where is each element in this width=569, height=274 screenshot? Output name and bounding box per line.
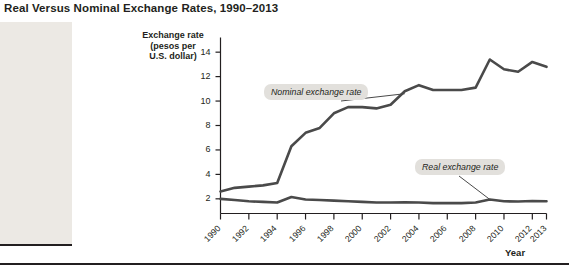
leader-line-real (459, 176, 490, 199)
chart-plot-area: Exchange rate(pesos perU.S. dollar) Year… (0, 0, 569, 274)
chart-svg (0, 0, 569, 274)
series-callout-real: Real exchange rate (415, 159, 505, 175)
series-callout-nominal: Nominal exchange rate (264, 84, 368, 100)
series-line-real (221, 197, 547, 203)
y-tick-label: 2 (193, 194, 211, 203)
y-tick-label: 12 (193, 72, 211, 81)
y-tick-label: 6 (193, 145, 211, 154)
annotation-leader-lines (341, 94, 490, 200)
chart-series (221, 60, 547, 204)
y-axis-title: Exchange rate(pesos perU.S. dollar) (131, 30, 215, 62)
y-axis-title-line: Exchange rate (131, 30, 215, 41)
y-tick-label: 8 (193, 121, 211, 130)
x-axis-title: Year (505, 247, 525, 258)
y-tick-label: 14 (193, 48, 211, 57)
y-tick-label: 10 (193, 97, 211, 106)
figure-root: Real Versus Nominal Exchange Rates, 1990… (0, 0, 569, 274)
y-tick-label: 4 (193, 170, 211, 179)
